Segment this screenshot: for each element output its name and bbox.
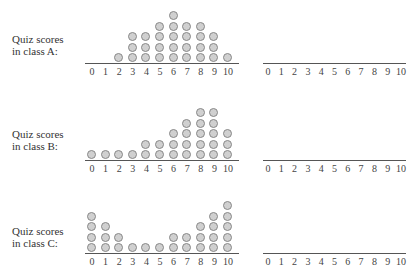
axis-tick-label: 8 [367, 256, 381, 267]
data-dot [114, 150, 123, 159]
data-dot [209, 222, 218, 231]
axis-tick-label: 4 [314, 66, 328, 77]
data-dot [141, 243, 150, 252]
axis-tick-label: 3 [301, 163, 315, 174]
data-dot [87, 233, 96, 242]
data-dot [101, 150, 110, 159]
data-dot [223, 140, 232, 149]
axis-tick-label: 5 [153, 66, 167, 77]
axis-tick-label: 1 [99, 163, 113, 174]
data-dot [196, 150, 205, 159]
dot-plot-axis [85, 253, 239, 254]
data-dot [128, 243, 137, 252]
data-dot [209, 212, 218, 221]
data-dot [169, 22, 178, 31]
data-dot [223, 212, 232, 221]
data-dot [141, 43, 150, 52]
axis-tick-label: 2 [288, 256, 302, 267]
axis-tick-label: 7 [180, 256, 194, 267]
axis-tick-label: 4 [139, 66, 153, 77]
label-line: Quiz scores [12, 128, 64, 140]
data-dot [141, 32, 150, 41]
axis-tick-label: 6 [167, 256, 181, 267]
label-line: in class B: [12, 140, 64, 152]
data-dot [182, 53, 191, 62]
data-dot [196, 108, 205, 117]
axis-tick-label: 2 [112, 66, 126, 77]
row-label: Quiz scoresin class B: [12, 128, 64, 152]
data-dot [209, 108, 218, 117]
data-dot [223, 201, 232, 210]
axis-tick-label: 10 [221, 256, 235, 267]
axis-tick-label: 5 [328, 256, 342, 267]
axis-tick-label: 9 [381, 256, 395, 267]
data-dot [169, 11, 178, 20]
data-dot [114, 243, 123, 252]
data-dot [114, 53, 123, 62]
axis-tick-label: 5 [153, 256, 167, 267]
axis-tick-label: 9 [207, 163, 221, 174]
axis-tick-label: 8 [194, 66, 208, 77]
axis-tick-label: 3 [126, 163, 140, 174]
axis-tick-label: 10 [221, 66, 235, 77]
axis-tick-label: 8 [194, 163, 208, 174]
data-dot [223, 53, 232, 62]
axis-tick-label: 1 [99, 256, 113, 267]
axis-tick-label: 3 [301, 256, 315, 267]
data-dot [101, 243, 110, 252]
data-dot [196, 222, 205, 231]
data-dot [182, 22, 191, 31]
axis-tick-label: 2 [112, 163, 126, 174]
axis-tick-label: 1 [274, 163, 288, 174]
axis-tick-label: 6 [341, 66, 355, 77]
data-dot [182, 140, 191, 149]
label-line: Quiz scores [12, 225, 64, 237]
data-dot [196, 243, 205, 252]
data-dot [101, 233, 110, 242]
axis-tick-label: 3 [301, 66, 315, 77]
data-dot [182, 233, 191, 242]
data-dot [196, 22, 205, 31]
data-dot [169, 233, 178, 242]
dot-plot-axis [85, 160, 239, 161]
data-dot [209, 233, 218, 242]
empty-number-line [263, 253, 406, 254]
axis-tick-label: 6 [167, 66, 181, 77]
axis-tick-label: 2 [112, 256, 126, 267]
axis-tick-label: 7 [180, 66, 194, 77]
axis-tick-label: 0 [261, 256, 275, 267]
data-dot [128, 32, 137, 41]
data-dot [223, 233, 232, 242]
data-dot [87, 212, 96, 221]
axis-tick-label: 0 [85, 256, 99, 267]
data-dot [169, 150, 178, 159]
data-dot [169, 32, 178, 41]
data-dot [196, 140, 205, 149]
axis-tick-label: 1 [274, 66, 288, 77]
axis-tick-label: 7 [354, 66, 368, 77]
data-dot [223, 222, 232, 231]
axis-tick-label: 9 [207, 256, 221, 267]
empty-number-line [263, 160, 406, 161]
data-dot [87, 243, 96, 252]
data-dot [182, 32, 191, 41]
data-dot [223, 150, 232, 159]
data-dot [141, 53, 150, 62]
axis-tick-label: 1 [99, 66, 113, 77]
data-dot [87, 222, 96, 231]
axis-tick-label: 3 [126, 66, 140, 77]
data-dot [196, 32, 205, 41]
axis-tick-label: 8 [367, 66, 381, 77]
axis-tick-label: 7 [180, 163, 194, 174]
axis-tick-label: 3 [126, 256, 140, 267]
data-dot [196, 53, 205, 62]
axis-tick-label: 10 [394, 163, 408, 174]
data-dot [182, 43, 191, 52]
data-dot [182, 119, 191, 128]
data-dot [169, 140, 178, 149]
axis-tick-label: 6 [341, 256, 355, 267]
data-dot [169, 43, 178, 52]
dot-plot-axis [85, 63, 239, 64]
axis-tick-label: 0 [261, 163, 275, 174]
data-dot [169, 53, 178, 62]
